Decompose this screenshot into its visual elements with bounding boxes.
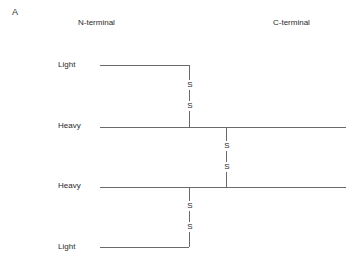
light-chain-bottom-line [100, 247, 189, 248]
light-chain-top-line [100, 65, 189, 66]
sulfur-label: S [186, 201, 193, 211]
n-terminal-label: N-terminal [78, 18, 115, 28]
chain-label-heavy-bottom: Heavy [58, 181, 81, 191]
c-terminal-label: C-terminal [273, 18, 310, 28]
sulfur-label: S [223, 141, 230, 151]
chain-label-light-bottom: Light [58, 242, 75, 252]
chain-label-heavy-top: Heavy [58, 121, 81, 131]
heavy-chain-top-line [100, 127, 346, 128]
heavy-chain-bottom-line [100, 187, 346, 188]
disulfide-bond-top [189, 65, 190, 127]
disulfide-bond-bottom [189, 187, 190, 247]
panel-label: A [12, 7, 18, 17]
sulfur-label: S [186, 222, 193, 232]
sulfur-label: S [186, 80, 193, 90]
sulfur-label: S [186, 101, 193, 111]
sulfur-label: S [223, 162, 230, 172]
chain-label-light-top: Light [58, 60, 75, 70]
disulfide-bond-middle [226, 127, 227, 187]
